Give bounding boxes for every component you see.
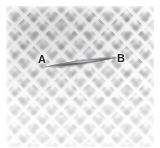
annotation-label-b: B (117, 53, 125, 64)
specimen-surface-image (6, 6, 154, 147)
figure-root: A B (0, 0, 160, 148)
annotation-label-a: A (38, 54, 46, 65)
image-grain-texture (6, 6, 154, 147)
